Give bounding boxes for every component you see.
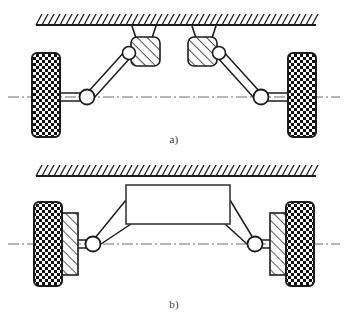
panel-a-hatch-marks xyxy=(36,14,318,25)
panel-b xyxy=(8,165,340,286)
panel-b-left-strut-plate xyxy=(62,213,78,275)
figure-root: a) b) xyxy=(0,0,348,325)
panel-b-left-hub-joint xyxy=(86,237,101,252)
suspension-diagram xyxy=(0,0,348,325)
panel-a-left-wheel xyxy=(32,53,60,137)
panel-b-right-hub-joint xyxy=(248,237,263,252)
panel-b-hatch-marks xyxy=(36,165,318,176)
panel-a-right-hub-joint xyxy=(254,90,269,105)
panel-b-right-wheel xyxy=(286,202,314,286)
panel-a-caption: a) xyxy=(0,133,348,145)
panel-a-left-hub-joint xyxy=(80,90,95,105)
panel-b-left-wheel xyxy=(34,202,62,286)
panel-a-left-block-pivot xyxy=(123,47,136,60)
panel-a-right-wheel xyxy=(288,53,316,137)
panel-b-caption: b) xyxy=(0,298,348,310)
panel-b-right-strut-plate xyxy=(270,213,286,275)
panel-a-chassis-line xyxy=(36,14,318,25)
panel-a-right-block-pivot xyxy=(213,47,226,60)
panel-b-chassis-line xyxy=(36,165,318,176)
panel-a xyxy=(8,14,340,137)
panel-b-body-box xyxy=(126,185,230,224)
